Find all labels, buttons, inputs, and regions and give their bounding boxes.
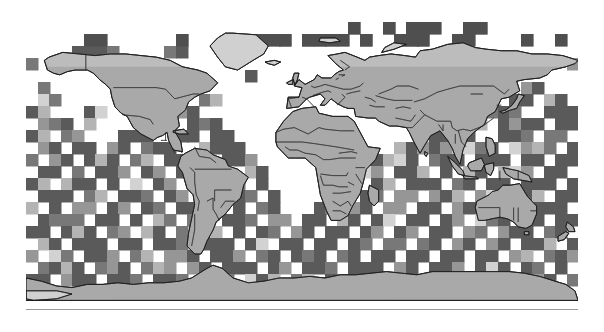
world-map-plot <box>26 22 578 310</box>
grid-data-layer <box>26 22 578 310</box>
figure-container <box>0 0 604 332</box>
